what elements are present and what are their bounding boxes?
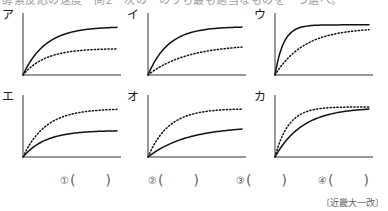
panel-plot-ア	[16, 10, 122, 84]
curve-panel-エ: エ	[0, 90, 125, 170]
curve-solid-イ	[148, 27, 242, 75]
panel-plot-ウ	[268, 10, 374, 84]
curve-panel-カ: カ	[252, 90, 377, 170]
source-attribution: 〔近畿大一改〕	[321, 196, 384, 209]
curve-solid-カ	[275, 109, 369, 157]
curve-dotted-オ	[148, 109, 242, 157]
answer-input-2[interactable]	[163, 174, 193, 186]
answer-blank-4[interactable]: ④()	[318, 170, 369, 190]
answer-number-2: ②	[148, 175, 157, 186]
answer-blank-3[interactable]: ③()	[236, 170, 287, 190]
answer-number-3: ③	[236, 175, 245, 186]
panel-plot-エ	[16, 92, 122, 166]
answer-paren-close-3: )	[281, 173, 286, 187]
panel-label-ウ: ウ	[254, 9, 266, 21]
panel-plot-オ	[141, 92, 247, 166]
curve-solid-ア	[23, 27, 117, 75]
curve-panel-ア: ア	[0, 8, 125, 88]
answer-blank-2[interactable]: ②()	[148, 170, 199, 190]
answer-paren-close-2: )	[193, 173, 198, 187]
clipped-header-text: 酵素反応の速度 問2 次の のうち最も適当なものを一つ選べ。	[0, 0, 388, 7]
answer-paren-close-1: )	[105, 173, 110, 187]
panel-plot-カ	[268, 92, 374, 166]
clipped-header-label: 酵素反応の速度 問2 次の のうち最も適当なものを一つ選べ。	[2, 0, 343, 7]
curve-solid-エ	[23, 131, 117, 157]
answer-blank-1[interactable]: ①()	[60, 170, 111, 190]
curve-panel-イ: イ	[125, 8, 250, 88]
panel-plot-イ	[141, 10, 247, 84]
panel-label-オ: オ	[127, 91, 139, 103]
answer-number-4: ④	[318, 175, 327, 186]
panel-label-ア: ア	[2, 9, 14, 21]
answer-paren-close-4: )	[363, 173, 368, 187]
answer-input-3[interactable]	[251, 174, 281, 186]
curve-dotted-ウ	[275, 30, 369, 75]
curve-panel-ウ: ウ	[252, 8, 377, 88]
panel-label-カ: カ	[254, 91, 266, 103]
answer-input-1[interactable]	[75, 174, 105, 186]
curve-solid-ウ	[275, 25, 369, 75]
answer-input-4[interactable]	[333, 174, 363, 186]
curve-dotted-カ	[275, 107, 369, 157]
panel-grid: アイウエオカ	[0, 8, 388, 168]
curve-panel-オ: オ	[125, 90, 250, 170]
panel-label-イ: イ	[127, 9, 139, 21]
panel-label-エ: エ	[2, 91, 14, 103]
answer-blank-row: ①()②()③()④()	[0, 170, 388, 190]
answer-number-1: ①	[60, 175, 69, 186]
